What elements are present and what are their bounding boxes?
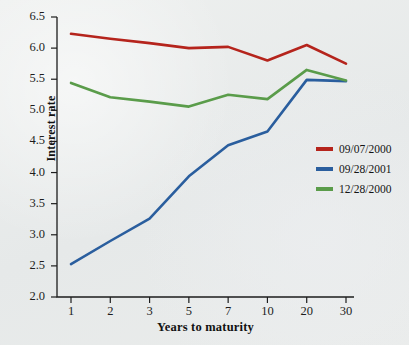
series-line-2 — [71, 80, 346, 264]
axis-spine — [57, 17, 354, 297]
series-line-3 — [71, 70, 346, 107]
chart-canvas — [57, 17, 354, 297]
x-tick-label: 1 — [54, 305, 88, 318]
x-tick-label: 3 — [133, 305, 167, 318]
y-tick-label: 2.0 — [15, 290, 45, 303]
x-axis-title: Years to maturity — [57, 320, 354, 335]
y-tick-label: 6.5 — [15, 10, 45, 23]
legend-swatch-icon — [316, 147, 333, 150]
legend-label: 09/28/2001 — [339, 163, 391, 175]
y-tick-label: 4.0 — [15, 166, 45, 179]
legend-item: 12/28/2000 — [316, 179, 391, 199]
x-tick-label: 7 — [211, 305, 245, 318]
y-tick-label: 5.0 — [15, 103, 45, 116]
y-tick-label: 3.0 — [15, 228, 45, 241]
x-tick-label: 20 — [290, 305, 324, 318]
yield-curve-figure: Interest rate 2.02.53.03.54.04.55.05.56.… — [0, 0, 409, 345]
x-tick-label: 30 — [329, 305, 363, 318]
y-tick-label: 5.5 — [15, 72, 45, 85]
chart-legend: 09/07/200009/28/200112/28/2000 — [316, 139, 391, 199]
series-line-1 — [71, 34, 346, 64]
x-tick-label: 5 — [172, 305, 206, 318]
y-tick-label: 4.5 — [15, 134, 45, 147]
y-tick-label: 6.0 — [15, 41, 45, 54]
x-tick-label: 10 — [250, 305, 284, 318]
legend-label: 09/07/2000 — [339, 143, 391, 155]
y-tick-label: 3.5 — [15, 197, 45, 210]
y-tick-label: 2.5 — [15, 259, 45, 272]
x-tick-label: 2 — [93, 305, 127, 318]
legend-item: 09/28/2001 — [316, 159, 391, 179]
legend-label: 12/28/2000 — [339, 183, 391, 195]
legend-swatch-icon — [316, 167, 333, 170]
legend-item: 09/07/2000 — [316, 139, 391, 159]
legend-swatch-icon — [316, 187, 333, 190]
plot-area: 2.02.53.03.54.04.55.05.56.06.5 123571020… — [57, 17, 354, 297]
